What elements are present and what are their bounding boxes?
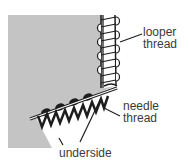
looper-label-line2: thread xyxy=(143,38,177,50)
needle-leader-line xyxy=(104,108,120,116)
vertical-stitch-band xyxy=(98,15,120,88)
fabric-shape xyxy=(8,15,115,148)
needle-thread-label: needle thread xyxy=(123,100,159,124)
underside-leader-line-left xyxy=(59,138,63,145)
underside-label: underside xyxy=(59,147,112,159)
looper-leader-line xyxy=(120,34,142,42)
underside-label-line1: underside xyxy=(59,147,112,159)
looper-thread-label: looper thread xyxy=(143,26,177,50)
needle-label-line2: thread xyxy=(123,112,159,124)
